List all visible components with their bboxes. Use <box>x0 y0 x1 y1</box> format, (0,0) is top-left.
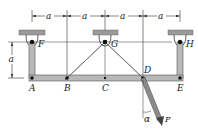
label-g: G <box>111 39 118 49</box>
pin-f <box>30 40 34 44</box>
label-b: B <box>63 83 71 93</box>
pin-g <box>103 40 107 44</box>
point-c <box>104 77 106 79</box>
dim-label-left: a <box>9 54 14 64</box>
support-plates <box>19 30 193 35</box>
dim-label-3: a <box>120 11 125 21</box>
dim-label-4: a <box>158 11 163 21</box>
dim-label-1: a <box>46 11 51 21</box>
label-h: H <box>185 39 194 49</box>
pin-b <box>65 76 69 80</box>
label-a: A <box>28 83 36 93</box>
member-he <box>177 42 183 78</box>
member-gd <box>103 40 145 80</box>
pin-h <box>178 40 182 44</box>
pin-e <box>178 76 182 80</box>
member-bg <box>65 40 107 80</box>
label-f: F <box>37 39 45 49</box>
label-alpha: α <box>144 114 150 124</box>
label-c: C <box>102 83 109 93</box>
label-e: E <box>176 83 184 93</box>
label-p: P <box>164 115 171 124</box>
frame-diagram: a a a a a <box>0 0 198 129</box>
dim-label-2: a <box>82 11 87 21</box>
label-d: D <box>143 65 151 75</box>
member-fa <box>29 42 35 78</box>
pin-a <box>30 76 34 80</box>
